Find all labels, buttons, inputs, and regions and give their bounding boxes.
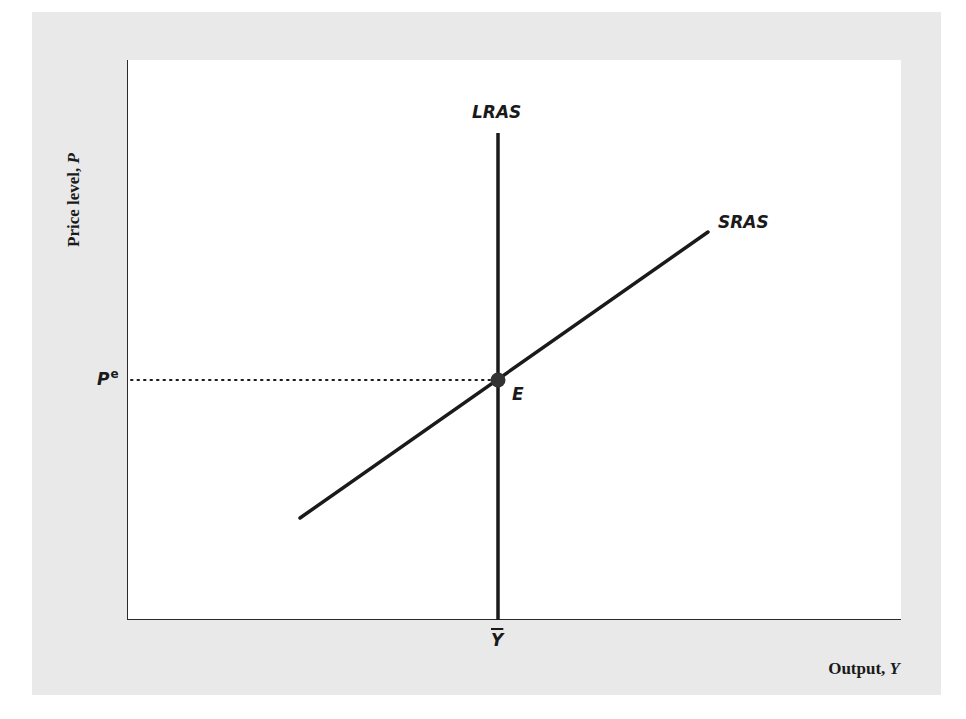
y-axis-label: Price level, P — [64, 153, 84, 247]
lras-label: LRAS — [472, 102, 521, 122]
x-axis-label: Output, Y — [828, 659, 900, 679]
equilibrium-label: E — [512, 384, 524, 404]
pe-superscript: e — [110, 367, 118, 381]
pe-tick-label: Pe — [97, 367, 119, 389]
y-axis-label-text: Price level, — [64, 163, 83, 247]
equilibrium-point — [491, 373, 506, 388]
sras-label: SRAS — [718, 212, 769, 232]
y-axis-variable: P — [64, 153, 83, 163]
ybar-tick-label: Y — [491, 630, 503, 650]
x-axis-variable: Y — [890, 659, 900, 678]
sras-curve — [300, 232, 708, 518]
pe-base: P — [97, 369, 109, 389]
x-axis-label-text: Output, — [828, 659, 889, 678]
